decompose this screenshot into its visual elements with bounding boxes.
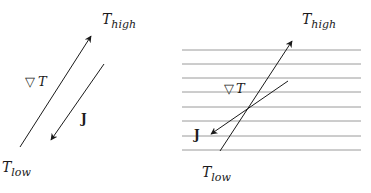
left-t-high-label: Thigh: [102, 11, 136, 31]
left-panel-isotropic: Thigh Tlow ▽T J: [2, 11, 136, 179]
right-t-high-label: Thigh: [302, 11, 336, 31]
nabla-icon: ▽: [224, 81, 234, 96]
nabla-icon: ▽: [25, 74, 35, 89]
right-flux-label: J: [193, 128, 200, 142]
right-gradient-arrow: [220, 41, 292, 151]
left-t-low-label: Tlow: [2, 159, 31, 179]
left-flux-label: J: [80, 112, 87, 126]
left-flux-arrow: [51, 64, 104, 140]
right-panel-layered: Thigh Tlow ▽T J: [182, 11, 361, 184]
left-gradient-label: ▽T: [25, 74, 48, 89]
layer-lines: [182, 50, 361, 150]
left-gradient-arrow: [20, 36, 91, 147]
right-gradient-label: ▽T: [224, 81, 246, 96]
diagram-canvas: Thigh Tlow ▽T J Thigh Tlow ▽T J: [0, 0, 371, 193]
right-t-low-label: Tlow: [202, 164, 231, 184]
